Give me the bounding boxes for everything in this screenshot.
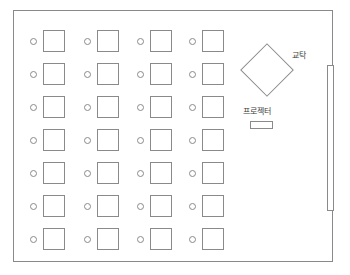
seat-unit[interactable] <box>30 63 65 85</box>
seat-unit[interactable] <box>84 96 119 118</box>
projector-shape[interactable] <box>250 121 273 129</box>
chair-icon <box>84 203 91 210</box>
seat-unit[interactable] <box>84 228 119 250</box>
desk-icon <box>150 129 172 151</box>
chair-icon <box>137 71 144 78</box>
desk-icon <box>43 228 65 250</box>
desk-icon <box>97 129 119 151</box>
seat-unit[interactable] <box>137 162 172 184</box>
chair-icon <box>137 236 144 243</box>
classroom-floorplan: 교탁 프로젝터 <box>0 0 350 275</box>
desk-icon <box>202 129 224 151</box>
chair-icon <box>189 236 196 243</box>
desk-icon <box>202 228 224 250</box>
desk-icon <box>202 195 224 217</box>
chair-icon <box>137 38 144 45</box>
chair-icon <box>30 236 37 243</box>
seat-unit[interactable] <box>137 195 172 217</box>
desk-icon <box>202 162 224 184</box>
seat-unit[interactable] <box>84 195 119 217</box>
chair-icon <box>137 203 144 210</box>
chair-icon <box>189 170 196 177</box>
podium-label: 교탁 <box>292 52 306 60</box>
seat-unit[interactable] <box>30 30 65 52</box>
seat-unit[interactable] <box>137 96 172 118</box>
seat-unit[interactable] <box>137 30 172 52</box>
desk-icon <box>97 195 119 217</box>
desk-icon <box>97 30 119 52</box>
desk-icon <box>150 162 172 184</box>
seat-unit[interactable] <box>30 129 65 151</box>
desk-icon <box>150 96 172 118</box>
seat-unit[interactable] <box>189 228 224 250</box>
chair-icon <box>84 104 91 111</box>
seat-unit[interactable] <box>84 30 119 52</box>
chair-icon <box>189 203 196 210</box>
seat-unit[interactable] <box>30 162 65 184</box>
seat-unit[interactable] <box>137 228 172 250</box>
desk-icon <box>150 30 172 52</box>
desk-icon <box>150 228 172 250</box>
chair-icon <box>30 203 37 210</box>
seat-unit[interactable] <box>189 63 224 85</box>
desk-icon <box>97 228 119 250</box>
chair-icon <box>30 71 37 78</box>
seat-unit[interactable] <box>84 63 119 85</box>
desk-icon <box>97 162 119 184</box>
chair-icon <box>84 71 91 78</box>
wall-fixture-shape[interactable] <box>327 65 334 211</box>
seat-unit[interactable] <box>30 195 65 217</box>
desk-icon <box>97 96 119 118</box>
desk-icon <box>150 195 172 217</box>
desk-icon <box>43 96 65 118</box>
chair-icon <box>84 38 91 45</box>
chair-icon <box>189 38 196 45</box>
seat-unit[interactable] <box>30 228 65 250</box>
seat-unit[interactable] <box>189 30 224 52</box>
chair-icon <box>189 137 196 144</box>
chair-icon <box>30 104 37 111</box>
chair-icon <box>84 236 91 243</box>
chair-icon <box>137 104 144 111</box>
seat-unit[interactable] <box>189 129 224 151</box>
chair-icon <box>84 170 91 177</box>
chair-icon <box>30 38 37 45</box>
desk-icon <box>43 63 65 85</box>
chair-icon <box>30 170 37 177</box>
desk-icon <box>97 63 119 85</box>
desk-icon <box>43 195 65 217</box>
seat-unit[interactable] <box>189 195 224 217</box>
chair-icon <box>189 104 196 111</box>
seat-unit[interactable] <box>137 63 172 85</box>
seat-unit[interactable] <box>189 162 224 184</box>
chair-icon <box>84 137 91 144</box>
projector-label: 프로젝터 <box>243 108 271 116</box>
chair-icon <box>30 137 37 144</box>
desk-icon <box>43 162 65 184</box>
seat-unit[interactable] <box>137 129 172 151</box>
chair-icon <box>137 170 144 177</box>
desk-icon <box>43 30 65 52</box>
desk-icon <box>202 30 224 52</box>
seat-unit[interactable] <box>84 162 119 184</box>
chair-icon <box>189 71 196 78</box>
chair-icon <box>137 137 144 144</box>
seat-unit[interactable] <box>30 96 65 118</box>
desk-icon <box>150 63 172 85</box>
desk-icon <box>43 129 65 151</box>
seat-unit[interactable] <box>84 129 119 151</box>
desk-icon <box>202 63 224 85</box>
seat-unit[interactable] <box>189 96 224 118</box>
desk-icon <box>202 96 224 118</box>
